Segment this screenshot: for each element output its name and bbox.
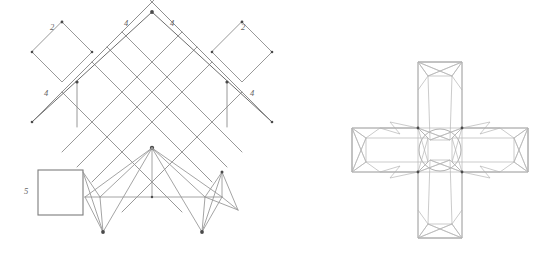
lattice-stiffeners [77, 82, 227, 127]
dim-label-square: 5 [24, 186, 28, 196]
dim-label-top-right: 2 [241, 22, 246, 32]
center-hourglass-elements [418, 128, 462, 172]
square-block [38, 170, 83, 215]
lattice-nodes [31, 10, 274, 150]
junction-elements [380, 122, 500, 178]
diagram-canvas: 2 4 4 2 4 4 5 [0, 0, 560, 259]
right-diagram [352, 62, 528, 238]
left-diagram: 2 4 4 2 4 4 5 [24, 0, 273, 234]
dim-label-right: 4 [250, 88, 255, 98]
dim-label-left: 4 [44, 88, 49, 98]
hourglass-bottom-arm [418, 210, 462, 238]
hourglass-right-arm [500, 128, 528, 172]
cross-outline [352, 62, 528, 238]
hourglass-top-arm [418, 62, 462, 90]
truss-nodes [101, 171, 223, 234]
lattice-cell-top-left [32, 22, 92, 82]
figure-container: 2 4 4 2 4 4 5 [0, 0, 560, 259]
dim-label-top-mid-right: 4 [170, 18, 175, 28]
arm-mesh-lines [366, 76, 514, 224]
hourglass-left-arm [352, 128, 380, 172]
